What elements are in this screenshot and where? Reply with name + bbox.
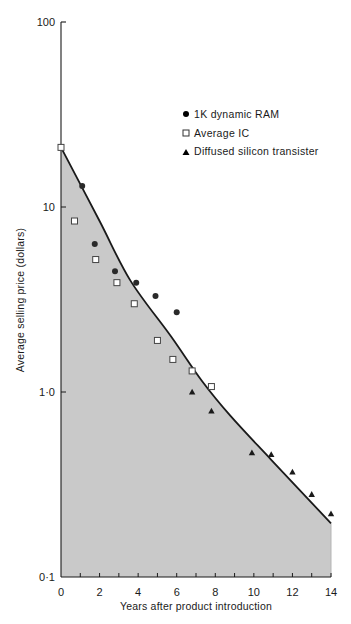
filled-circle-icon xyxy=(183,111,189,117)
ic-data-point xyxy=(189,368,195,374)
ram-data-point xyxy=(112,268,118,274)
open-square-icon xyxy=(183,130,189,136)
x-axis-title: Years after product introduction xyxy=(120,600,272,612)
x-tick-label: 4 xyxy=(135,586,141,598)
legend-item-diffused-silicon-transister: Diffused silicon transister xyxy=(183,145,319,157)
x-tick-label: 0 xyxy=(58,586,64,598)
ram-data-point xyxy=(79,183,85,189)
ic-data-point xyxy=(58,144,64,150)
x-tick-label: 2 xyxy=(97,586,103,598)
ic-data-point xyxy=(114,280,120,286)
ic-data-point xyxy=(170,356,176,362)
transistor-data-point xyxy=(289,469,295,475)
ram-data-point xyxy=(92,241,98,247)
x-tick-label: 8 xyxy=(212,586,218,598)
y-tick-label: 10 xyxy=(43,201,55,213)
ram-data-point xyxy=(174,309,180,315)
transistor-data-point xyxy=(268,451,274,457)
filled-triangle-icon xyxy=(183,149,190,155)
y-tick-label: 1·0 xyxy=(39,386,55,398)
x-tick-label: 6 xyxy=(174,586,180,598)
transistor-data-point xyxy=(328,510,334,516)
legend-label: Diffused silicon transister xyxy=(194,145,319,157)
y-tick-label: 100 xyxy=(37,16,55,28)
y-tick-label: 0·1 xyxy=(39,571,55,583)
ic-data-point xyxy=(72,218,78,224)
ram-data-point xyxy=(153,293,159,299)
x-tick-label: 14 xyxy=(325,586,337,598)
ic-data-point xyxy=(154,337,160,343)
shaded-area xyxy=(61,147,331,577)
ic-data-point xyxy=(131,301,137,307)
ram-data-point xyxy=(133,280,139,286)
legend-item-average-ic: Average IC xyxy=(183,127,249,139)
x-tick-label: 10 xyxy=(248,586,260,598)
x-tick-label: 12 xyxy=(286,586,298,598)
shaded-region xyxy=(61,147,331,577)
legend: 1K dynamic RAM Average IC Diffused silic… xyxy=(183,108,319,157)
legend-label: Average IC xyxy=(194,127,249,139)
ic-data-point xyxy=(208,384,214,390)
y-axis-title: Average selling price (dollars) xyxy=(14,228,26,372)
legend-label: 1K dynamic RAM xyxy=(194,108,279,120)
transistor-data-point xyxy=(309,491,315,497)
ic-data-point xyxy=(93,257,99,263)
legend-item-1k-dynamic-ram: 1K dynamic RAM xyxy=(183,108,279,120)
price-decline-chart: 024681012140·11·010100 Average selling p… xyxy=(0,0,351,624)
